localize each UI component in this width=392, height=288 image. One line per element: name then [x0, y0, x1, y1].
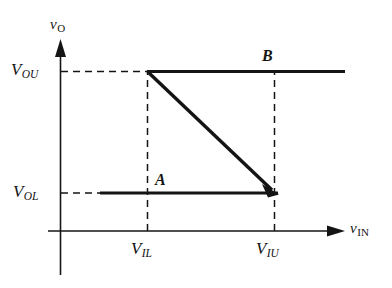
v-ou-tick-label: VOU [11, 61, 38, 81]
point-b-label: B [262, 48, 273, 64]
y-axis-label-main: v [50, 16, 57, 32]
y-axis-label-subscript: O [57, 22, 66, 34]
v-ou-label-main: V [11, 60, 21, 79]
reference-lines-group [61, 72, 275, 232]
v-ol-label-main: V [13, 182, 23, 201]
x-axis-label: vIN [350, 221, 369, 238]
plot-canvas [0, 0, 392, 288]
x-axis-label-main: v [350, 220, 357, 236]
transfer-characteristic-figure: vO vIN VOU VOL VIL VIU A B [0, 0, 392, 288]
y-axis-arrowhead [55, 39, 66, 57]
v-il-tick-label: VIL [131, 240, 152, 260]
v-il-label-subscript: IL [141, 247, 152, 259]
v-iu-tick-label: VIU [256, 240, 279, 260]
transition-arrowhead [262, 184, 279, 198]
point-a-label: A [155, 172, 166, 188]
v-iu-label-subscript: IU [266, 247, 278, 259]
v-iu-label-main: V [256, 239, 266, 258]
axis-group [48, 39, 345, 275]
x-axis-arrowhead [327, 226, 345, 237]
v-il-label-main: V [131, 239, 141, 258]
v-ol-label-subscript: OL [23, 190, 38, 202]
v-ou-label-subscript: OU [21, 68, 38, 80]
v-ol-tick-label: VOL [13, 183, 38, 203]
x-axis-label-subscript: IN [357, 226, 370, 238]
transition-diagonal-line [148, 72, 272, 190]
curve-group [100, 72, 345, 194]
y-axis-label: vO [50, 17, 65, 34]
